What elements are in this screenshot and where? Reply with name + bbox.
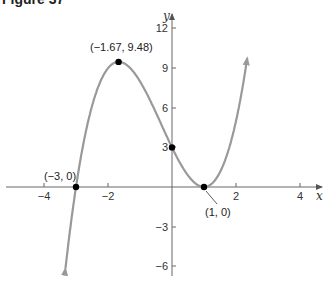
point-local-max: [115, 59, 121, 65]
label-local-max: (−1.67, 9.48): [90, 41, 153, 53]
leader-line: [206, 191, 217, 204]
x-tick-label: −4: [38, 190, 51, 202]
label-root-neg3: (−3, 0): [44, 170, 76, 182]
y-tick-label: 6: [162, 102, 168, 114]
function-curve: [65, 58, 247, 268]
x-tick-label: 2: [233, 190, 239, 202]
x-tick-label: 4: [297, 190, 303, 202]
y-tick-label: 9: [162, 62, 168, 74]
y-tick-label: 3: [162, 141, 168, 153]
function-graph: −4 −2 2 4 x 12 9 6 3 −3 −6 y (−3, 0) (−1…: [0, 0, 335, 284]
y-axis-label: y: [162, 9, 170, 23]
label-root-1: (1, 0): [205, 206, 231, 218]
x-tick-label: −2: [102, 190, 115, 202]
point-root-1: [201, 184, 207, 190]
point-root-neg3: [73, 184, 79, 190]
y-tick-label: −3: [155, 221, 168, 233]
y-tick-label: −6: [155, 260, 168, 272]
point-y-intercept: [169, 144, 175, 150]
x-axis-label: x: [316, 189, 323, 203]
y-tick-label: 12: [156, 22, 168, 34]
